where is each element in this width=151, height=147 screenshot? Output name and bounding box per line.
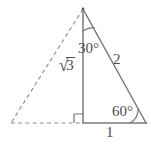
angle-label-apex-30: 30° [78, 41, 99, 56]
side-label-base: 1 [106, 125, 114, 140]
side-label-hypotenuse: 2 [113, 52, 121, 67]
apex-angle-arc [83, 28, 95, 31]
right-angle-marker [74, 114, 83, 123]
triangle-diagram-svg [0, 0, 151, 147]
angle-label-base-60: 60° [112, 104, 133, 119]
side-label-altitude-sqrt3: √3 [59, 57, 75, 74]
radical-group: √3 [59, 57, 75, 74]
radicand-value: 3 [66, 57, 75, 73]
geometry-figure: 30° 60° 2 1 √3 [0, 0, 151, 147]
apex-vertex-dot [82, 8, 85, 11]
